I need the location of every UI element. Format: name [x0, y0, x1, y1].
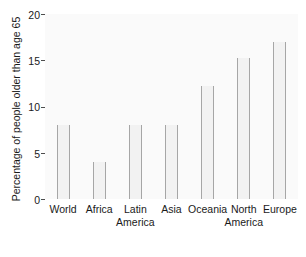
y-tick-mark — [41, 60, 45, 61]
x-tick-text-line2: America — [95, 216, 175, 229]
bar-north-america — [237, 58, 250, 199]
y-tick-mark — [41, 199, 45, 200]
bar-asia — [165, 125, 178, 199]
bar-latin-america — [129, 125, 142, 199]
y-tick-mark — [41, 107, 45, 108]
y-tick-mark — [41, 153, 45, 154]
figure-caption — [0, 250, 306, 257]
y-axis-title: Percentage of people older than age 65 — [10, 9, 22, 209]
bar-europe — [273, 42, 286, 199]
x-tick-text: Europe — [263, 203, 297, 215]
x-tick-label: Europe — [240, 203, 306, 216]
bar-africa — [93, 162, 106, 199]
bar-chart: Percentage of people older than age 65 0… — [0, 0, 306, 257]
x-tick-text-line2: America — [204, 216, 284, 229]
bar-oceania — [201, 86, 214, 199]
plot-area — [45, 14, 298, 199]
bar-world — [57, 125, 70, 199]
y-tick-mark — [41, 14, 45, 15]
